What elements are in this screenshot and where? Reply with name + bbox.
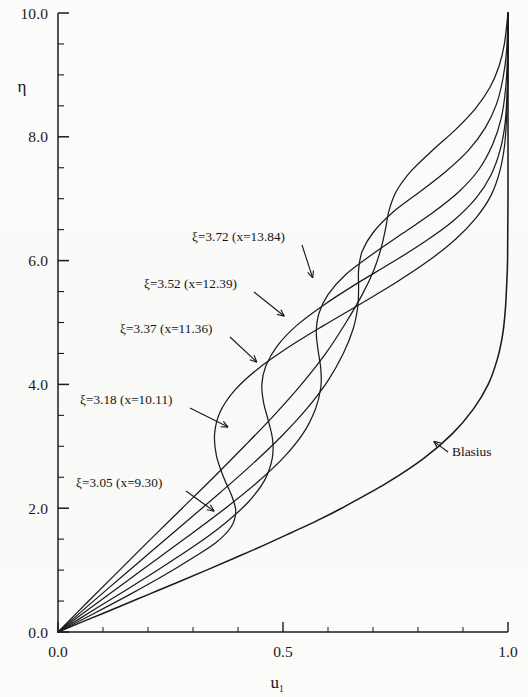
annotation-leader-line [230, 337, 257, 362]
blasius-annotation-label: Blasius [452, 444, 491, 459]
x-axis-tick-label: 0.0 [48, 643, 68, 660]
annotation-labels: ξ=3.72 (x=13.84)ξ=3.52 (x=12.39)ξ=3.37 (… [76, 229, 491, 490]
x-axis-title: u1 [270, 673, 284, 694]
y-axis-tick-label: 4.0 [28, 376, 48, 393]
y-axis-tick-label: 2.0 [28, 500, 48, 517]
y-axis-tick-label: 6.0 [28, 252, 48, 269]
chart-canvas: 0.02.04.06.08.010.0 0.00.51.0 η u1 ξ=3.7… [0, 0, 528, 697]
x-axis-ticks [58, 622, 508, 632]
curve-annotation-label: ξ=3.72 (x=13.84) [192, 229, 285, 244]
annotation-leader-line [190, 408, 228, 427]
y-axis-ticks [58, 13, 69, 632]
y-axis-tick-labels: 0.02.04.06.08.010.0 [20, 5, 48, 641]
x-axis-tick-labels: 0.00.51.0 [48, 643, 518, 660]
curve-annotation-label: ξ=3.52 (x=12.39) [144, 276, 237, 291]
x-axis-tick-label: 1.0 [498, 643, 518, 660]
annotation-leader-line [302, 245, 313, 278]
y-axis-title: η [18, 77, 27, 96]
velocity-profile-figure: 0.02.04.06.08.010.0 0.00.51.0 η u1 ξ=3.7… [0, 0, 528, 697]
curve-annotation-label: ξ=3.05 (x=9.30) [76, 475, 162, 490]
y-axis-tick-label: 10.0 [20, 5, 48, 22]
annotation-leader-line [254, 292, 284, 316]
curve-annotation-label: ξ=3.18 (x=10.11) [80, 392, 173, 407]
y-axis-tick-label: 8.0 [28, 128, 48, 145]
curve-annotation-label: ξ=3.37 (x=11.36) [120, 321, 213, 336]
y-axis-tick-label: 0.0 [28, 624, 48, 641]
x-axis-tick-label: 0.5 [273, 643, 293, 660]
x-axis-title-subscript: 1 [279, 684, 284, 694]
